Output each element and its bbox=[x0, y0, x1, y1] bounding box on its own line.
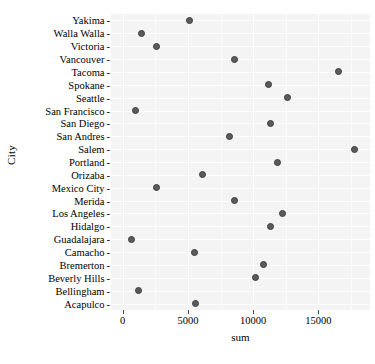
data-point bbox=[284, 94, 291, 101]
y-axis-tick-text: Yakima bbox=[72, 15, 104, 26]
data-point bbox=[335, 68, 342, 75]
y-axis-tick-label: Bellingham- bbox=[16, 285, 110, 296]
y-axis-tick-text: Acapulco bbox=[64, 298, 104, 309]
y-axis-tick-label: Beverly Hills- bbox=[16, 272, 110, 283]
y-axis-tick-text: Guadalajara bbox=[54, 234, 105, 245]
y-axis-tick-label: Acapulco- bbox=[16, 298, 110, 309]
y-axis-tick-text: Orizaba bbox=[71, 169, 104, 180]
plot-panel bbox=[111, 14, 370, 310]
y-axis-tick-dash: - bbox=[107, 169, 111, 180]
y-axis-tick-text: Bellingham bbox=[56, 285, 105, 296]
gridline-horizontal bbox=[111, 252, 370, 253]
y-axis-tick-dash: - bbox=[107, 259, 111, 270]
y-axis-tick-dash: - bbox=[107, 208, 111, 219]
data-point bbox=[252, 274, 259, 281]
data-point bbox=[226, 133, 233, 140]
y-axis-tick-text: Beverly Hills bbox=[48, 272, 104, 283]
y-axis-tick-dash: - bbox=[107, 157, 111, 168]
y-axis-tick-text: Victoria bbox=[71, 41, 105, 52]
data-point bbox=[265, 81, 272, 88]
gridline-horizontal bbox=[111, 162, 370, 163]
gridline-horizontal bbox=[111, 149, 370, 150]
gridline-horizontal bbox=[111, 85, 370, 86]
y-axis-tick-dash: - bbox=[107, 221, 111, 232]
data-point bbox=[351, 146, 358, 153]
x-axis-title-text: sum bbox=[231, 331, 249, 343]
y-axis-tick-text: Merida bbox=[74, 195, 104, 206]
y-axis-tick-label: Camacho- bbox=[16, 247, 110, 258]
gridline-horizontal bbox=[111, 98, 370, 99]
y-axis-tick-text: Tacoma bbox=[71, 66, 104, 77]
data-point bbox=[267, 120, 274, 127]
y-axis-tick-dash: - bbox=[107, 79, 111, 90]
x-axis-tick-text: 10000 bbox=[240, 314, 266, 327]
data-point bbox=[135, 287, 142, 294]
gridline-horizontal bbox=[111, 188, 370, 189]
data-point bbox=[138, 30, 145, 37]
y-axis-tick-text: Spokane bbox=[68, 79, 104, 90]
data-point bbox=[128, 236, 135, 243]
y-axis-tick-text: San Diego bbox=[60, 118, 104, 129]
y-axis-tick-label: San Diego- bbox=[16, 118, 110, 129]
y-axis-tick-text: Salem bbox=[78, 144, 104, 155]
gridline-horizontal bbox=[111, 136, 370, 137]
y-axis-tick-dash: - bbox=[107, 28, 111, 39]
y-axis-tick-dash: - bbox=[107, 298, 111, 309]
y-axis-tick-label: San Francisco- bbox=[16, 105, 110, 116]
y-axis-tick-label: Los Angeles- bbox=[16, 208, 110, 219]
y-axis-tick-label: Bremerton- bbox=[16, 259, 110, 270]
y-axis-tick-label: Salem- bbox=[16, 144, 110, 155]
y-axis-tick-label: Spokane- bbox=[16, 79, 110, 90]
y-axis-tick-label: Portland- bbox=[16, 157, 110, 168]
y-axis-tick-dash: - bbox=[107, 247, 111, 258]
data-point bbox=[231, 56, 238, 63]
x-axis-tick-labels: 050001000015000 bbox=[111, 314, 370, 328]
data-point bbox=[186, 17, 193, 24]
gridline-horizontal bbox=[111, 265, 370, 266]
gridline-horizontal bbox=[111, 304, 370, 305]
y-axis-tick-label: Tacoma- bbox=[16, 66, 110, 77]
y-axis-tick-text: Mexico City bbox=[52, 182, 105, 193]
y-axis-tick-dash: - bbox=[107, 144, 111, 155]
data-point bbox=[199, 171, 206, 178]
y-axis-tick-label: Guadalajara- bbox=[16, 234, 110, 245]
gridline-horizontal bbox=[111, 72, 370, 73]
gridline-horizontal bbox=[111, 46, 370, 47]
gridline-horizontal bbox=[111, 33, 370, 34]
y-axis-tick-text: Portland bbox=[69, 157, 105, 168]
gridline-horizontal bbox=[111, 201, 370, 202]
x-axis-tick-text: 15000 bbox=[305, 314, 331, 327]
gridline-horizontal bbox=[111, 175, 370, 176]
y-axis-tick-dash: - bbox=[107, 182, 111, 193]
data-point bbox=[231, 197, 238, 204]
data-point bbox=[153, 184, 160, 191]
y-axis-tick-label: Mexico City- bbox=[16, 182, 110, 193]
x-axis-tick-text: 5000 bbox=[177, 314, 198, 327]
y-axis-tick-dash: - bbox=[107, 131, 111, 142]
y-axis-tick-label: Seattle- bbox=[16, 92, 110, 103]
data-point bbox=[267, 223, 274, 230]
scatter-chart: City Yakima-Walla Walla-Victoria-Vancouv… bbox=[0, 0, 375, 364]
y-axis-tick-label: Yakima- bbox=[16, 15, 110, 26]
y-axis-tick-dash: - bbox=[107, 118, 111, 129]
data-point bbox=[192, 300, 199, 307]
gridline-horizontal bbox=[111, 226, 370, 227]
y-axis-tick-dash: - bbox=[107, 105, 111, 116]
gridline-horizontal bbox=[111, 291, 370, 292]
data-point bbox=[279, 210, 286, 217]
data-point bbox=[274, 159, 281, 166]
y-axis-tick-label: San Andres- bbox=[16, 131, 110, 142]
y-axis-tick-label: Hidalgo- bbox=[16, 221, 110, 232]
y-axis-tick-label: Orizaba- bbox=[16, 169, 110, 180]
y-axis-tick-dash: - bbox=[107, 54, 111, 65]
y-axis-tick-dash: - bbox=[107, 92, 111, 103]
y-axis-tick-dash: - bbox=[107, 272, 111, 283]
y-axis-tick-text: Camacho bbox=[65, 247, 105, 258]
y-axis-tick-label: Victoria- bbox=[16, 41, 110, 52]
x-axis-tick-text: 0 bbox=[120, 314, 125, 327]
y-axis-tick-text: Vancouver bbox=[60, 54, 105, 65]
data-point bbox=[260, 261, 267, 268]
data-point bbox=[191, 249, 198, 256]
x-axis-title: sum bbox=[111, 331, 370, 343]
y-axis-tick-labels: Yakima-Walla Walla-Victoria-Vancouver-Ta… bbox=[16, 14, 110, 310]
